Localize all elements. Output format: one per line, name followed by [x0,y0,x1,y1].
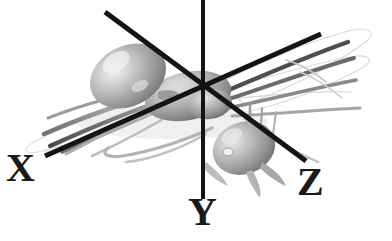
axis-label-y: Y [188,192,217,232]
axis-label-z: Z [297,162,324,202]
axis-label-x: X [6,148,35,188]
compound-eye [223,148,233,156]
figure-canvas: X Y Z [0,0,392,241]
